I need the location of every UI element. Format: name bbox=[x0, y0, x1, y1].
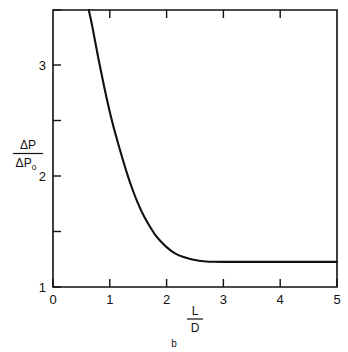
y-axis-label-denominator: ΔPo bbox=[16, 156, 37, 172]
plot-frame bbox=[53, 10, 337, 287]
x-axis-label-denominator: D bbox=[191, 321, 200, 335]
x-axis-ticks bbox=[53, 10, 337, 287]
chart-plot: 3 2 1 0 1 2 3 4 5 ΔP ΔPo L D bbox=[0, 0, 348, 352]
y-axis-label-denominator-subscript: o bbox=[32, 162, 37, 172]
y-tick-labels: 3 2 1 bbox=[39, 58, 46, 295]
y-axis-label-numerator: ΔP bbox=[20, 138, 36, 152]
y-tick-label-2: 2 bbox=[39, 169, 46, 184]
x-tick-label-0: 0 bbox=[49, 292, 56, 307]
y-axis-ticks bbox=[53, 10, 61, 287]
x-axis-label-numerator: L bbox=[192, 304, 199, 318]
data-series-pressure-drop-ratio bbox=[89, 10, 337, 262]
figure-caption: b bbox=[171, 338, 177, 349]
curve-line bbox=[89, 10, 337, 262]
y-tick-label-3: 3 bbox=[39, 58, 46, 73]
y-axis-label-denominator-base: ΔP bbox=[16, 156, 32, 170]
figure-container: 3 2 1 0 1 2 3 4 5 ΔP ΔPo L D bbox=[0, 0, 348, 352]
x-tick-label-1: 1 bbox=[106, 292, 113, 307]
x-tick-label-3: 3 bbox=[220, 292, 227, 307]
y-tick-label-1: 1 bbox=[39, 280, 46, 295]
x-axis-label: L D bbox=[187, 304, 203, 335]
x-tick-label-4: 4 bbox=[277, 292, 284, 307]
x-tick-label-5: 5 bbox=[333, 292, 340, 307]
y-axis-label: ΔP ΔPo bbox=[13, 138, 43, 172]
x-tick-label-2: 2 bbox=[163, 292, 170, 307]
